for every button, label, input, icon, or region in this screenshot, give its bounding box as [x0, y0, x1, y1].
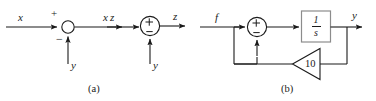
integrator-numerator: 1 [306, 15, 326, 26]
integrator-denominator: s [306, 27, 326, 38]
summing-junction-open-circle-1 [62, 21, 74, 33]
label-output-z-2: z [173, 11, 177, 22]
diagram-a-variant-2 [107, 16, 185, 64]
caption-a: (a) [88, 84, 100, 95]
diagram-a-variant-1 [6, 21, 122, 64]
summing-junction-circle-2 [140, 16, 159, 35]
label-input-y-1: y [71, 60, 76, 71]
integrator-transfer-function: 1 s [306, 15, 326, 38]
label-input-x-2: x [103, 12, 108, 23]
sign-minus-1: − [56, 33, 63, 45]
diagram-b-feedback-loop [146, 11, 363, 80]
label-input-y-2: y [153, 60, 158, 71]
label-output-y: y [352, 10, 357, 21]
caption-b: (b) [281, 84, 293, 95]
label-input-x-1: x [18, 12, 23, 23]
block-diagram-figure: x + − z y x z y f y 1 s 10 (a) (b) [0, 0, 376, 101]
sign-plus-1: + [51, 8, 57, 19]
label-output-z-1: z [110, 12, 114, 23]
label-input-f: f [215, 12, 218, 23]
gain-value-label: 10 [305, 59, 316, 70]
summing-junction-circle-b [247, 17, 266, 36]
